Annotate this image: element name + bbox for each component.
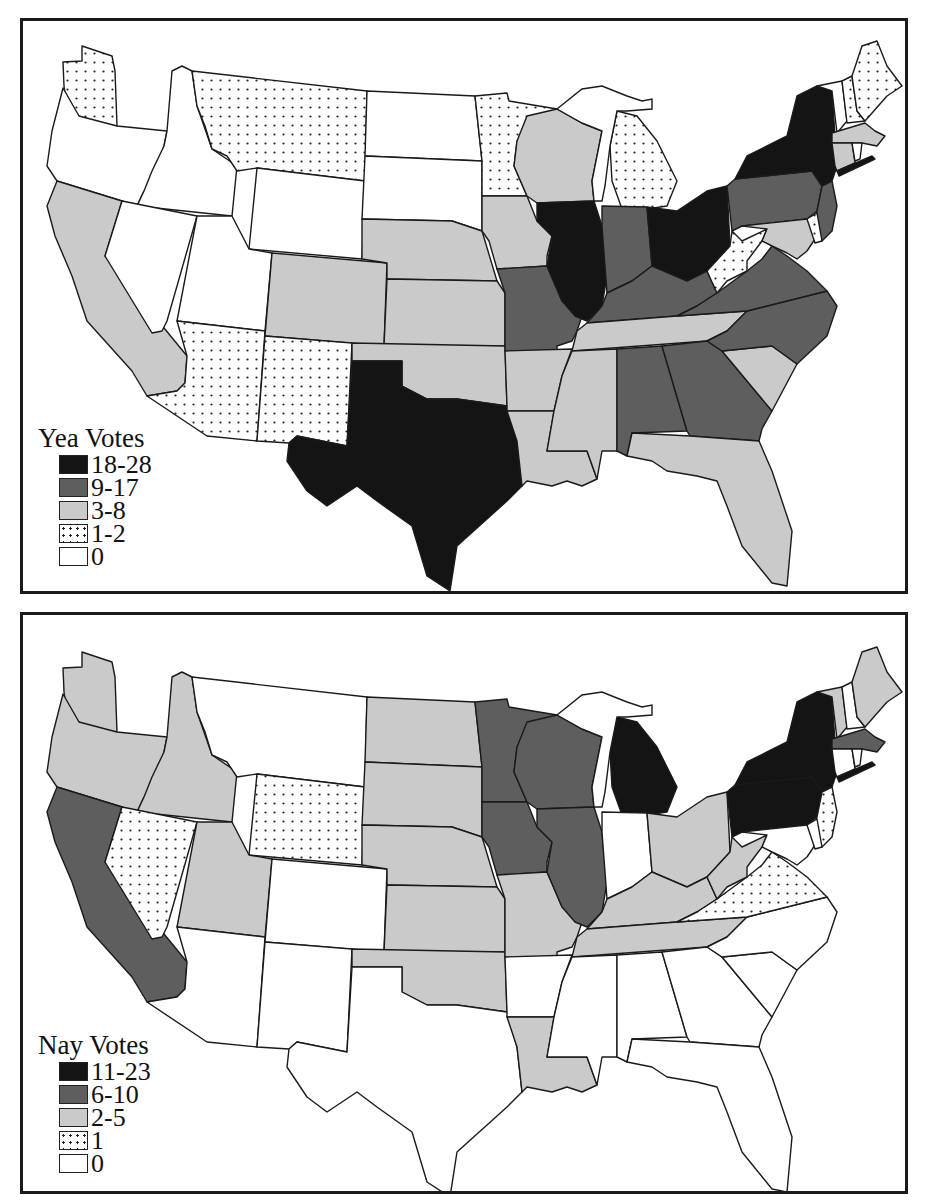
state-ks [384, 279, 505, 346]
state-ny [735, 692, 837, 792]
nay-legend: Nay Votes 11-23 6-10 2-5 1 0 [39, 1030, 151, 1175]
legend-swatch [59, 478, 88, 497]
legend-swatch [59, 1062, 88, 1081]
legend-swatch [59, 1108, 88, 1127]
state-co [265, 859, 387, 952]
yea-votes-map [23, 21, 905, 597]
state-me [852, 41, 902, 121]
state-ks [384, 885, 505, 952]
yea-votes-map-panel: Yea Votes 18-28 9-17 3-8 1-2 0 [20, 18, 908, 594]
legend-swatch [59, 547, 88, 566]
legend-swatch [59, 501, 88, 520]
state-nm [257, 336, 352, 446]
state-nd [365, 697, 482, 767]
state-wy [249, 774, 365, 865]
legend-title: Nay Votes [38, 1030, 151, 1060]
state-nd [365, 91, 482, 161]
state-fl [627, 1039, 792, 1191]
state-co [265, 253, 387, 346]
legend-swatch [59, 455, 88, 474]
nay-votes-map [23, 615, 905, 1191]
legend-item-zero: 0 [59, 1152, 151, 1175]
legend-label: 0 [91, 545, 104, 568]
legend-item-low: 1 [59, 1129, 151, 1152]
state-wy [249, 168, 365, 259]
legend-swatch [59, 1131, 88, 1150]
legend-title: Yea Votes [38, 423, 152, 453]
state-ny [735, 86, 837, 186]
nay-votes-map-panel: Nay Votes 11-23 6-10 2-5 1 0 [20, 612, 908, 1194]
legend-label: 0 [91, 1152, 104, 1175]
legend-item-mid: 2-5 [59, 1106, 151, 1129]
state-mi [610, 717, 677, 815]
yea-legend: Yea Votes 18-28 9-17 3-8 1-2 0 [39, 423, 152, 568]
legend-swatch [59, 1154, 88, 1173]
legend-swatch [59, 1085, 88, 1104]
state-mi [610, 111, 677, 209]
state-me [852, 647, 902, 727]
legend-swatch [59, 524, 88, 543]
legend-item-low: 1-2 [59, 522, 152, 545]
state-nm [257, 942, 352, 1052]
state-fl [627, 433, 792, 586]
legend-item-zero: 0 [59, 545, 152, 568]
